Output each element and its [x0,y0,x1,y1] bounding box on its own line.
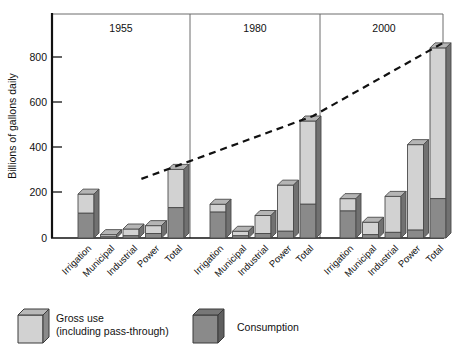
cat-label-total-1955: Total [162,243,184,265]
legend-label-gross-use-line1: Gross use [56,312,104,324]
bar-consumption-1955-power [146,234,162,239]
y-tick-label-200: 200 [29,186,47,198]
trend-line-annotation [141,43,443,179]
y-axis-ticks: 800 600 400 200 0 [29,51,62,244]
bar-gross-1980-municipal [233,231,249,236]
cat-label-power-1955: Power [135,243,162,270]
panel-label-2000: 2000 [372,22,396,34]
bar-side-2000-power [424,140,429,238]
y-tick-label-600: 600 [29,96,47,108]
chart-container: 800 600 400 200 0 Billions of gallons da… [0,0,452,356]
bar-gross-1955-irrigation [78,194,94,213]
bar-consumption-1955-irrigation [78,213,94,238]
bar-consumption-1980-total [300,204,316,238]
bar-gross-1980-power [278,185,294,231]
y-tick-label-0: 0 [41,232,47,244]
cat-label-total-2000: Total [423,243,445,265]
bar-gross-2000-municipal [363,222,379,234]
bar-consumption-2000-total [430,199,446,238]
panel-label-1955: 1955 [109,22,133,34]
bars-layer [78,43,451,238]
bar-gross-2000-power [408,145,424,231]
bar-gross-1980-industrial [255,216,271,234]
legend-label-consumption: Consumption [237,321,299,333]
y-tick-label-800: 800 [29,51,47,63]
y-axis-title: Billions of gallons daily [6,72,18,178]
bar-gross-2000-industrial [385,196,401,232]
bar-consumption-1955-municipal [101,237,117,238]
y-tick-label-400: 400 [29,141,47,153]
cat-label-power-2000: Power [396,243,423,270]
bar-consumption-2000-power [408,230,424,238]
bar-consumption-1980-power [278,231,294,238]
chart-legend: Gross use (including pass-through) Consu… [18,309,299,343]
legend-swatch-consumption [193,309,224,343]
bar-side-1955-total [184,164,189,238]
bar-side-1980-power [294,180,299,238]
bar-consumption-1955-industrial [123,236,139,238]
bar-consumption-1955-total [168,208,184,238]
bar-gross-1955-power [146,226,162,234]
bar-side-2000-industrial [401,191,406,238]
bar-consumption-1980-industrial [255,234,271,239]
bar-consumption-2000-irrigation [340,211,356,238]
bar-side-1980-total [316,116,321,238]
bar-side-2000-total [446,43,451,238]
bar-gross-1980-irrigation [210,204,226,212]
cat-label-power-1980: Power [267,243,294,270]
cat-label-total-1980: Total [293,243,315,265]
bar-gross-1980-total [300,121,316,204]
bar-side-1980-irrigation [226,199,231,238]
bar-consumption-2000-municipal [363,235,379,238]
bar-gross-2000-irrigation [340,199,356,211]
bar-consumption-1980-irrigation [210,212,226,238]
bar-side-2000-irrigation [356,194,361,238]
bar-consumption-1980-municipal [233,236,249,238]
legend-swatch-gross-use [18,309,49,343]
chart-svg: 800 600 400 200 0 Billions of gallons da… [0,0,452,356]
legend-label-gross-use-line2: (including pass-through) [56,325,169,337]
panel-label-1980: 1980 [243,22,267,34]
bar-gross-2000-total [430,48,446,199]
bar-gross-1955-industrial [123,229,139,236]
bar-gross-1955-total [168,169,184,207]
x-axis-category-labels: Irrigation Municipal Industrial Power To… [59,243,445,279]
bar-side-1980-industrial [271,211,276,239]
bar-side-1955-irrigation [94,189,99,238]
bar-consumption-2000-industrial [385,232,401,238]
